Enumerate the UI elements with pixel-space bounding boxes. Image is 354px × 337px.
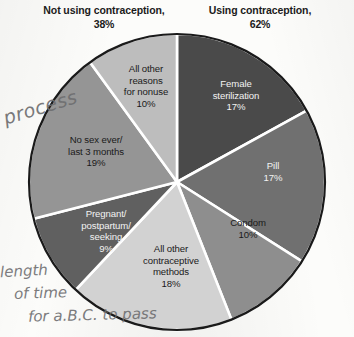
label-value: 10%	[137, 98, 156, 109]
label-value: 9%	[99, 243, 113, 254]
label-line: Pregnant/	[86, 208, 127, 219]
slice-label-pill: Pill 17%	[236, 160, 310, 183]
label-value: 17%	[264, 172, 283, 183]
label-line: reasons	[129, 75, 162, 86]
slice-label-pregnant-postpartum-seeking: Pregnant/ postpartum/ seeking 9%	[56, 208, 156, 255]
label-line: seeking	[90, 231, 122, 242]
slice-label-other-reasons-nonuse: All other reasons for nonuse 10%	[100, 63, 192, 110]
label-value: 17%	[227, 101, 246, 112]
label-line: for nonuse	[124, 86, 168, 97]
slice-label-female-sterilization: Female sterilization 17%	[184, 78, 288, 113]
label-line: Condom	[230, 217, 266, 228]
label-value: 18%	[162, 278, 181, 289]
label-line: Female	[220, 78, 251, 89]
label-line: All other	[154, 243, 188, 254]
label-line: No sex ever/	[70, 134, 123, 145]
label-value: 10%	[239, 229, 258, 240]
slice-label-condom: Condom 10%	[208, 217, 288, 240]
label-line: postpartum/	[81, 220, 131, 231]
label-line: contraceptive	[143, 255, 199, 266]
label-line: Pill	[267, 160, 279, 171]
label-value: 19%	[87, 157, 106, 168]
label-line: methods	[153, 266, 189, 277]
label-line: sterilization	[213, 90, 260, 101]
label-line: All other	[129, 63, 163, 74]
label-line: last 3 months	[68, 146, 124, 157]
slice-label-no-sex: No sex ever/ last 3 months 19%	[38, 134, 154, 169]
